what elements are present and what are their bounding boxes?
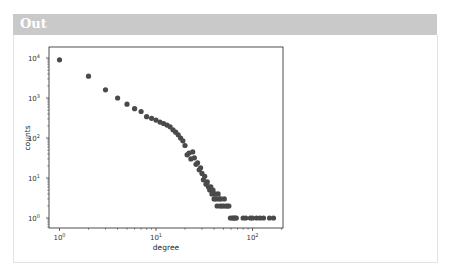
data-point — [132, 106, 137, 111]
data-point — [234, 215, 239, 220]
data-point — [216, 191, 221, 196]
axes-frame — [49, 47, 283, 228]
x-axis-label: degree — [153, 243, 180, 252]
data-point — [190, 149, 195, 154]
data-point — [226, 203, 231, 208]
data-point — [192, 155, 197, 160]
data-point — [103, 87, 108, 92]
data-point — [57, 57, 62, 62]
x-tick-label: 101 — [150, 232, 162, 242]
data-point — [180, 138, 185, 143]
y-tick-label: 104 — [28, 53, 40, 63]
data-point — [139, 109, 144, 114]
x-axis-ticks: 100101102 — [53, 228, 281, 242]
data-point — [144, 114, 149, 119]
data-point — [271, 215, 276, 220]
data-point — [202, 174, 207, 179]
data-point — [261, 215, 266, 220]
data-point — [243, 215, 248, 220]
data-point — [182, 143, 187, 148]
x-tick-label: 100 — [53, 232, 65, 242]
data-point — [205, 179, 210, 184]
y-tick-label: 103 — [28, 93, 40, 103]
y-tick-label: 101 — [28, 173, 40, 183]
data-point — [124, 102, 129, 107]
data-point — [86, 74, 91, 79]
y-tick-label: 100 — [28, 213, 40, 223]
data-point — [222, 196, 227, 201]
data-point — [198, 165, 203, 170]
y-axis-label: counts — [23, 125, 32, 150]
data-point — [115, 95, 120, 100]
data-point — [195, 160, 200, 165]
scatter-chart: 100101102 100101102103104 degree counts — [0, 0, 449, 275]
plot-area — [57, 57, 276, 220]
x-tick-label: 102 — [246, 232, 258, 242]
